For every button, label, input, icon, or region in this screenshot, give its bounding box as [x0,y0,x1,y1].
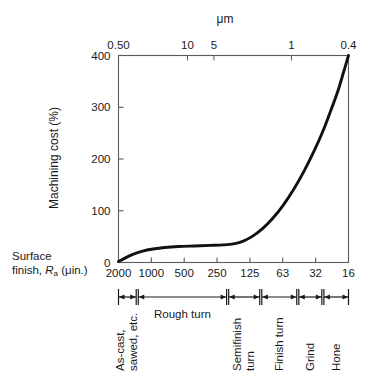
bracket-arrowhead [262,294,268,299]
bracket-arrowhead [291,294,297,299]
bracket-arrowhead [229,294,235,299]
plot-border [119,56,349,263]
bracket-arrowhead [119,294,125,299]
bracket-arrowhead [299,294,305,299]
bracket-arrowhead [130,294,136,299]
bracket-arrowhead [139,294,145,299]
bracket-arrowhead [316,294,322,299]
bracket-arrowhead [221,294,227,299]
plot-frame [119,56,349,263]
process-range-brackets [119,289,349,305]
machining-cost-figure: μm Machining cost (%) Surface finish, Ra… [0,0,374,376]
plot-canvas [0,0,374,376]
cost-curve-line [119,56,349,262]
bracket-arrowhead [324,294,330,299]
axis-ticks [119,56,316,263]
bracket-arrowhead [343,294,349,299]
bracket-arrowhead [254,294,260,299]
cost-curve [119,56,349,262]
